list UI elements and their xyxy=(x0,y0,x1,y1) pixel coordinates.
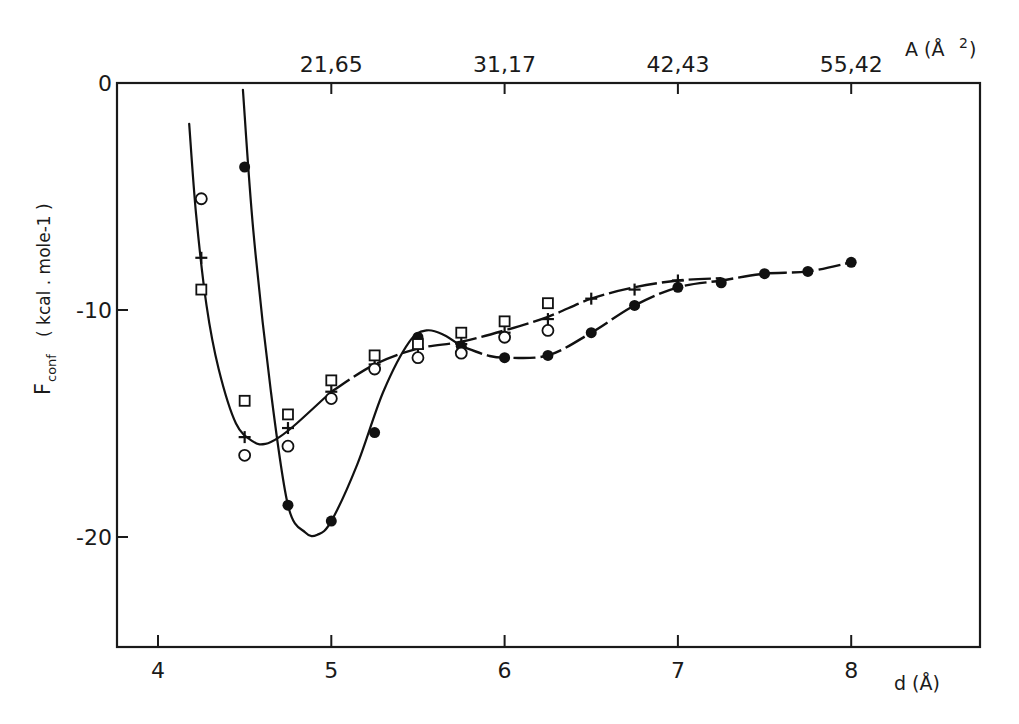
open-square-marker xyxy=(413,339,423,349)
open-circle-marker xyxy=(412,352,423,363)
filled-circle-marker xyxy=(282,500,293,511)
y-axis-title: F conf ( kcal . mole-1 ) xyxy=(31,203,59,395)
open-circle-marker xyxy=(239,450,250,461)
x-tick-label: 5 xyxy=(324,658,338,683)
open-circle-marker xyxy=(282,441,293,452)
y-axis-title-units: ( kcal . mole-1 ) xyxy=(34,203,54,337)
chart-canvas: 45678 0-10-20 21,6531,1742,4355,42 d (Å)… xyxy=(0,0,1019,724)
fitted-curves xyxy=(189,90,851,536)
x-tick-label: 8 xyxy=(844,658,858,683)
filled-circle-marker xyxy=(629,300,640,311)
filled-circle-marker xyxy=(802,266,813,277)
open-square-marker xyxy=(326,375,336,385)
open-square-marker xyxy=(370,350,380,360)
filled-circle-marker xyxy=(846,257,857,268)
open-circle-marker xyxy=(542,325,553,336)
top-tick-label: 31,17 xyxy=(473,52,536,77)
x-tick-label: 4 xyxy=(151,658,165,683)
y-tick-label: -10 xyxy=(76,298,112,323)
x-axis: 45678 xyxy=(151,635,858,683)
filled-circle-marker xyxy=(716,277,727,288)
top-axis-title-sup: 2 xyxy=(959,35,968,51)
open-square-marker xyxy=(543,298,553,308)
plus-marker xyxy=(195,252,207,264)
open-square-marker xyxy=(283,409,293,419)
top-axis: 21,6531,1742,4355,42 xyxy=(300,52,883,94)
top-tick-label: 42,43 xyxy=(646,52,709,77)
filled-circle-marker xyxy=(326,516,337,527)
fitted-curve-solid xyxy=(189,124,331,445)
open-square-marker xyxy=(456,328,466,338)
y-tick-label: -20 xyxy=(76,525,112,550)
y-axis-title-main: F xyxy=(31,383,55,395)
open-circle-marker xyxy=(326,393,337,404)
fitted-curve-solid xyxy=(243,90,461,536)
plus-marker xyxy=(282,422,294,434)
fitted-curve-dashed xyxy=(461,262,851,358)
filled-circle-marker xyxy=(586,327,597,338)
open-square-marker xyxy=(500,316,510,326)
y-axis-title-sub: conf xyxy=(44,354,59,382)
top-tick-label: 21,65 xyxy=(300,52,363,77)
open-circle-marker xyxy=(499,332,510,343)
filled-circle-marker xyxy=(239,161,250,172)
x-tick-label: 6 xyxy=(498,658,512,683)
open-circle-marker xyxy=(456,348,467,359)
filled-circle-marker xyxy=(759,268,770,279)
plus-marker xyxy=(239,431,251,443)
open-circle-marker xyxy=(196,193,207,204)
plus-marker xyxy=(585,293,597,305)
data-points xyxy=(195,161,856,526)
x-tick-label: 7 xyxy=(671,658,685,683)
y-axis: 0-10-20 xyxy=(76,71,128,550)
filled-circle-marker xyxy=(369,427,380,438)
top-axis-title: A (Å 2 ) xyxy=(905,35,976,60)
y-tick-label: 0 xyxy=(98,71,112,96)
open-square-marker xyxy=(240,396,250,406)
top-tick-label: 55,42 xyxy=(820,52,883,77)
top-axis-title-close: ) xyxy=(969,38,976,60)
open-square-marker xyxy=(196,285,206,295)
top-axis-title-main: A (Å xyxy=(905,38,944,60)
x-axis-title: d (Å) xyxy=(894,672,940,694)
filled-circle-marker xyxy=(499,352,510,363)
open-circle-marker xyxy=(369,364,380,375)
filled-circle-marker xyxy=(542,350,553,361)
